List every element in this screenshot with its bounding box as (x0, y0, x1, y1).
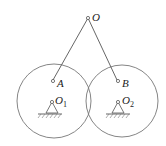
label-A: A (56, 77, 64, 89)
label-O1: O (55, 94, 63, 106)
joint-B (116, 79, 119, 82)
link-OA (53, 18, 88, 80)
left-wheel (17, 64, 91, 138)
joint-A (51, 79, 54, 82)
label-O1-subscript: 1 (63, 100, 67, 109)
mechanism-diagram: O A B O 1 O 2 (0, 0, 166, 146)
label-O: O (92, 11, 100, 23)
label-O2: O (122, 94, 130, 106)
joint-O (86, 16, 89, 19)
label-O2-subscript: 2 (130, 100, 134, 109)
label-B: B (122, 77, 129, 89)
